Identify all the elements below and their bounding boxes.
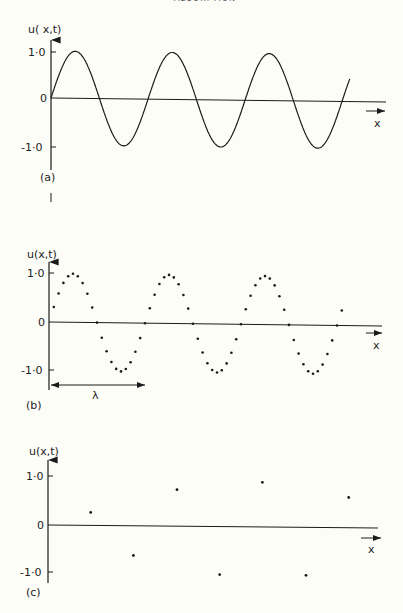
panel-a-tick-label-pos: 1·0 bbox=[28, 46, 46, 59]
sample-point bbox=[254, 284, 257, 287]
sample-point bbox=[264, 275, 267, 278]
panel-b: u(x,t) 1·0 0 -1·0 x λ (b) bbox=[21, 248, 382, 412]
sample-point bbox=[211, 369, 214, 372]
sample-point bbox=[278, 295, 281, 298]
panel-b-ylabel: u(x,t) bbox=[27, 248, 57, 261]
wavelength-label: λ bbox=[92, 389, 99, 402]
sample-point bbox=[81, 282, 84, 285]
panel-c-tick-label-pos: 1·0 bbox=[26, 470, 44, 483]
panel-c-x-axis bbox=[48, 525, 378, 528]
sample-point bbox=[312, 372, 315, 375]
sample-point bbox=[139, 337, 142, 340]
sample-point bbox=[144, 322, 147, 325]
sample-point bbox=[173, 276, 176, 279]
sample-point bbox=[235, 338, 238, 341]
sample-point bbox=[269, 277, 272, 280]
sample-point bbox=[305, 574, 308, 577]
sample-point bbox=[149, 307, 152, 310]
panel-a-tick-label-zero: 0 bbox=[40, 92, 47, 105]
sample-point bbox=[176, 488, 179, 491]
sample-point bbox=[110, 361, 113, 364]
sample-point bbox=[249, 295, 252, 298]
panel-a-label: (a) bbox=[40, 171, 55, 184]
sample-point bbox=[168, 274, 171, 277]
sample-point bbox=[307, 370, 310, 373]
sample-point bbox=[153, 293, 156, 296]
sample-point bbox=[347, 496, 350, 499]
sample-point bbox=[225, 362, 228, 365]
sample-point bbox=[62, 282, 65, 285]
sample-point bbox=[67, 275, 70, 278]
sample-point bbox=[341, 309, 344, 312]
panel-a-x-axis bbox=[51, 98, 386, 102]
sample-point bbox=[240, 323, 243, 326]
sample-point bbox=[158, 283, 161, 286]
panel-c-ylabel: u(x,t) bbox=[29, 445, 59, 458]
sample-point bbox=[125, 368, 128, 371]
panel-b-tick-label-neg: -1·0 bbox=[21, 364, 42, 377]
sample-point bbox=[91, 306, 94, 309]
sample-point bbox=[216, 371, 219, 374]
sample-point bbox=[197, 338, 200, 341]
sample-point bbox=[273, 284, 276, 287]
sample-point bbox=[96, 321, 99, 324]
panel-c-tick-label-zero: 0 bbox=[37, 519, 44, 532]
sample-point bbox=[53, 306, 56, 309]
sample-point bbox=[283, 309, 286, 312]
sample-point bbox=[259, 277, 262, 280]
sample-point bbox=[101, 336, 104, 339]
panel-b-label: (b) bbox=[26, 399, 42, 412]
sample-point bbox=[105, 350, 108, 353]
panel-b-x-axis bbox=[49, 322, 382, 326]
panel-b-xlabel: x bbox=[373, 339, 380, 352]
sample-point bbox=[177, 283, 180, 286]
sample-point bbox=[288, 324, 291, 327]
panel-a-tick-label-neg: -1·0 bbox=[21, 141, 42, 154]
sample-point bbox=[72, 273, 75, 276]
sample-point bbox=[302, 363, 305, 366]
sample-point bbox=[293, 339, 296, 342]
sample-point bbox=[201, 351, 204, 354]
panel-b-tick-label-zero: 0 bbox=[38, 316, 45, 329]
panel-a-ylabel: u( x,t) bbox=[28, 23, 61, 36]
sample-point bbox=[134, 350, 137, 353]
panel-c-xlabel: x bbox=[368, 543, 375, 556]
panel-c-tick-label-neg: -1·0 bbox=[20, 566, 41, 579]
panel-c: u(x,t) 1·0 0 -1·0 x (c) bbox=[20, 445, 381, 599]
sample-point bbox=[321, 363, 324, 366]
figure: u( x,t) 1·0 0 -1·0 x (a) u(x,t) 1·0 0 -1… bbox=[0, 0, 403, 613]
sample-point bbox=[132, 554, 135, 557]
sample-point bbox=[192, 322, 195, 325]
sample-point bbox=[317, 370, 320, 373]
sample-point bbox=[163, 276, 166, 279]
panel-b-tick-label-pos: 1·0 bbox=[27, 267, 45, 280]
sample-point bbox=[182, 294, 185, 297]
sample-point bbox=[331, 339, 334, 342]
panel-c-sample-points bbox=[89, 481, 350, 577]
sample-point bbox=[206, 362, 209, 365]
sample-point bbox=[336, 324, 339, 327]
sample-point bbox=[326, 353, 329, 356]
sample-point bbox=[297, 352, 300, 355]
sample-point bbox=[245, 308, 248, 311]
sample-point bbox=[57, 292, 60, 295]
panel-c-label: (c) bbox=[26, 586, 41, 599]
sample-point bbox=[89, 511, 92, 514]
sample-point bbox=[230, 352, 233, 355]
sample-point bbox=[221, 369, 224, 372]
sample-point bbox=[187, 307, 190, 310]
sample-point bbox=[218, 573, 221, 576]
sample-point bbox=[115, 368, 118, 371]
panel-a: u( x,t) 1·0 0 -1·0 x (a) bbox=[21, 23, 386, 202]
panel-a-xlabel: x bbox=[374, 117, 381, 130]
sample-point bbox=[120, 370, 123, 373]
sample-point bbox=[261, 481, 264, 484]
sample-point bbox=[77, 275, 80, 278]
sample-point bbox=[86, 293, 89, 296]
sample-point bbox=[129, 361, 132, 364]
